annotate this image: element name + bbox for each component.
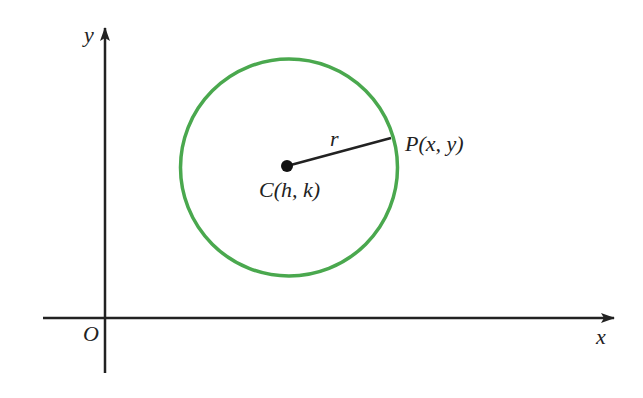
point-label: P(x, y)	[404, 131, 464, 156]
diagram-svg: y x O r P(x, y) C(h, k)	[0, 0, 643, 398]
radius-label: r	[330, 126, 339, 151]
center-label: C(h, k)	[259, 177, 320, 202]
origin-label: O	[83, 321, 99, 346]
y-axis-label: y	[82, 22, 94, 47]
circle-diagram: y x O r P(x, y) C(h, k)	[0, 0, 643, 398]
center-point	[281, 160, 293, 172]
radius-line	[287, 138, 391, 166]
x-axis-label: x	[595, 324, 606, 349]
